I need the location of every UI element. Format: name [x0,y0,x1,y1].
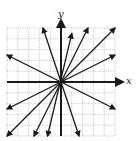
y-axis-label: y [58,8,64,19]
x-axis-label: x [126,75,132,86]
line-family-chart [0,0,138,141]
